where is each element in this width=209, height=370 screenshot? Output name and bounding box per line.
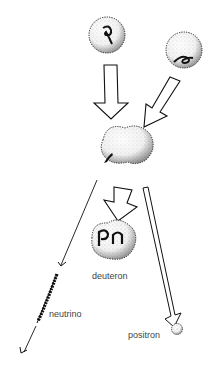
positron (172, 324, 183, 335)
neutrino-label: neutrino (49, 310, 82, 319)
neutrino-path-arrow (58, 180, 97, 266)
down-arrow-icon (104, 187, 137, 221)
proton-fusion-diagram: deuteron neutrino positron (0, 0, 209, 370)
deuteron (92, 220, 136, 259)
proton-2 (166, 32, 202, 68)
compound-nucleus (101, 126, 153, 164)
diagram-canvas (0, 0, 209, 370)
down-arrow-icon (94, 65, 128, 119)
proton-1 (89, 17, 125, 53)
diagonal-arrow-icon (144, 77, 180, 127)
positron-label: positron (128, 331, 160, 340)
positron-path-arrow (143, 187, 181, 327)
deuteron-label: deuteron (92, 272, 128, 281)
